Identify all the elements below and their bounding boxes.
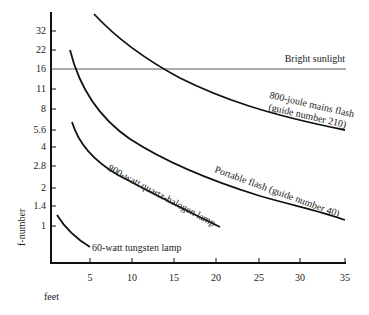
- curve-tungsten: [57, 215, 90, 247]
- x-axis-label: feet: [44, 291, 59, 302]
- x-tick-label: 5: [88, 272, 93, 283]
- y-tick-label: 2.8: [34, 160, 47, 171]
- y-tick-label: 2: [41, 182, 46, 193]
- y-tick-label: 1.4: [34, 200, 47, 211]
- x-tick-label: 35: [340, 272, 350, 283]
- quartz-halogen-label: 800-watt quartz-halogen lamp: [106, 162, 218, 228]
- chart: 32 22 16 11 8 5.6 4 2.8 2 1.4 1 5 10 15 …: [0, 0, 369, 315]
- y-tick-label: 5.6: [34, 124, 47, 135]
- tungsten-label: 60-watt tungsten lamp: [92, 242, 181, 253]
- sunlight-label: Bright sunlight: [285, 53, 346, 64]
- y-tick-label: 1: [41, 220, 46, 231]
- y-tick-label: 32: [36, 25, 46, 36]
- y-tick-label: 11: [36, 83, 46, 94]
- x-tick-label: 15: [169, 272, 179, 283]
- x-tick-label: 10: [127, 272, 137, 283]
- y-ticks: 32 22 16 11 8 5.6 4 2.8 2 1.4 1: [34, 25, 57, 231]
- y-tick-label: 4: [41, 141, 46, 152]
- x-tick-label: 30: [295, 272, 305, 283]
- y-tick-label: 22: [36, 44, 46, 55]
- x-tick-label: 25: [254, 272, 264, 283]
- x-ticks: 5 10 15 20 25 30 35: [88, 258, 351, 283]
- y-axis-label: f-number: [16, 208, 27, 246]
- y-tick-label: 8: [41, 103, 46, 114]
- portable-flash-label: Portable flash (guide number 40): [213, 164, 341, 220]
- x-tick-label: 20: [211, 272, 221, 283]
- y-tick-label: 16: [36, 63, 46, 74]
